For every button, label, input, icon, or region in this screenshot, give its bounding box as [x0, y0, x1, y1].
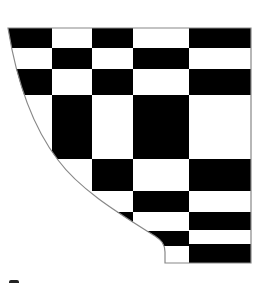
checker-cell	[189, 69, 251, 95]
checker-cell	[92, 159, 133, 191]
checker-cell	[189, 159, 251, 191]
checker-cell	[92, 69, 133, 95]
checker-cell	[92, 28, 133, 48]
checker-cell	[133, 48, 189, 69]
checker-cell	[52, 48, 92, 69]
checker-cell	[133, 231, 189, 246]
checker-cell	[133, 95, 189, 159]
checker-cells	[0, 0, 263, 284]
checkered-figure	[0, 0, 263, 284]
checker-cell	[189, 212, 251, 230]
checker-cell	[8, 28, 52, 48]
checker-cell	[189, 28, 251, 48]
partial-caption-mark	[9, 280, 19, 283]
checker-cell	[133, 191, 189, 212]
checker-cell	[92, 212, 133, 231]
checker-cell	[8, 69, 52, 95]
checker-cell	[189, 244, 251, 263]
checker-cell	[52, 95, 92, 159]
